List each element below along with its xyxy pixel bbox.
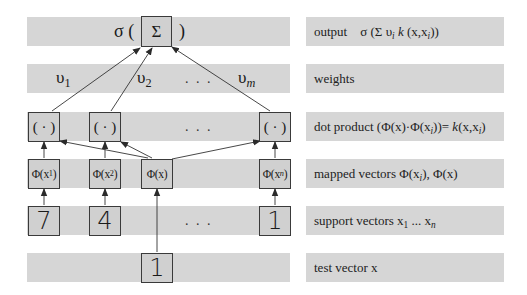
connection-arrows <box>0 0 527 295</box>
dot-product-ellipsis: . . . <box>185 119 213 135</box>
weights-ellipsis: . . . <box>185 71 213 87</box>
support-vectors-ellipsis: . . . <box>185 213 213 229</box>
weight-1: υ1 <box>56 68 71 88</box>
weight-2: υ2 <box>137 68 152 88</box>
dot-product-node-1: ( · ) <box>28 112 60 142</box>
dot-product-node-n: ( · ) <box>259 112 291 142</box>
sigma-close-label: ) <box>179 17 185 46</box>
support-vector-node-n: 1 <box>259 206 291 236</box>
mapped-test-vector-node: Φ(x) <box>141 159 173 189</box>
test-vector-node: 1 <box>141 253 173 283</box>
digit-image: 4 <box>97 207 112 235</box>
sigma-open-label: σ ( <box>114 17 134 46</box>
digit-image: 1 <box>267 207 282 235</box>
support-vector-node-1: 7 <box>28 206 60 236</box>
support-vector-node-2: 4 <box>89 206 121 236</box>
weight-m: υm <box>238 68 255 88</box>
mapped-vector-node-n: Φ(xn) <box>259 159 291 189</box>
summation-icon: Σ <box>152 22 162 42</box>
digit-image: 7 <box>36 207 51 235</box>
arrow-phix-dot-n <box>172 141 260 159</box>
dot-product-node-2: ( · ) <box>89 112 121 142</box>
mapped-vector-node-1: Φ(x1) <box>28 159 60 189</box>
summation-node: Σ <box>141 16 172 47</box>
mapped-vector-node-2: Φ(x2) <box>89 159 121 189</box>
digit-image: 1 <box>149 254 164 282</box>
